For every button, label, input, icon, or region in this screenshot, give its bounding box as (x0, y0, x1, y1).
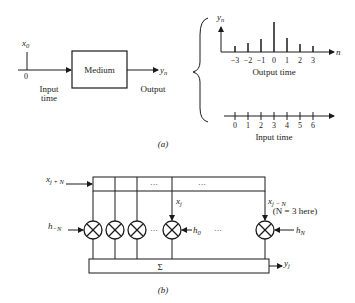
svg-text:n: n (336, 47, 341, 57)
svg-text:x0: x0 (21, 38, 30, 49)
input-time-axis: 0 1 2 3 4 5 6 Input time (224, 112, 334, 142)
caption-b: (b) (158, 285, 169, 295)
svg-text:−3: −3 (231, 56, 240, 65)
svg-text:3: 3 (311, 56, 315, 65)
sum-lines (93, 239, 265, 259)
svg-text:Output time: Output time (252, 67, 295, 77)
sigma-label: Σ (157, 262, 162, 272)
svg-text:Input time: Input time (255, 132, 292, 142)
input-top-label: xj + N (45, 174, 64, 185)
output-label-b: yj (283, 258, 290, 269)
summation-box (89, 259, 269, 273)
svg-text:1: 1 (285, 56, 289, 65)
output-symbol: yn (159, 65, 167, 76)
h-left-label: h−N (48, 221, 62, 232)
svg-text:−2: −2 (244, 56, 253, 65)
svg-text:0: 0 (233, 121, 237, 130)
output-stem-plot: yn n −3 −2 −1 0 1 2 3 Output time (216, 12, 341, 77)
ellipsis-2: ··· (214, 226, 222, 235)
input-time-label-2: time (41, 93, 57, 103)
svg-text:6: 6 (311, 121, 315, 130)
svg-text:yn: yn (216, 12, 224, 23)
h-right-label: hN (296, 225, 306, 236)
svg-text:5: 5 (298, 121, 302, 130)
figure-canvas: x0 0 Medium yn Input time Output yn n −3… (0, 0, 355, 303)
output-label: Output (140, 84, 166, 94)
delay-line-register: ··· ··· (93, 177, 265, 191)
ellipsis-1: ··· (150, 226, 158, 235)
caption-a: (a) (158, 139, 169, 149)
h-mid-label: h0 (193, 225, 202, 236)
svg-text:3: 3 (272, 121, 276, 130)
svg-text:0: 0 (24, 72, 28, 81)
svg-text:2: 2 (298, 56, 302, 65)
svg-text:···: ··· (150, 180, 158, 189)
svg-text:0: 0 (272, 56, 276, 65)
svg-text:4: 4 (285, 121, 289, 130)
curly-brace (193, 18, 208, 122)
medium-label: Medium (84, 65, 115, 75)
svg-text:2: 2 (259, 121, 263, 130)
multiplier-nodes (84, 221, 274, 239)
svg-text:1: 1 (246, 121, 250, 130)
xj-label: xj (175, 196, 182, 207)
n-note: (N = 3 here) (273, 206, 317, 216)
svg-text:−1: −1 (257, 56, 266, 65)
input-impulse: x0 0 (21, 38, 30, 81)
svg-text:···: ··· (198, 180, 206, 189)
